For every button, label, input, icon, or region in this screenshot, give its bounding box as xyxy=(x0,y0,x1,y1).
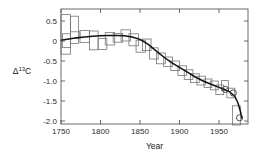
y-tick-label: -1.5 xyxy=(43,97,57,106)
y-tick-label: 0.5 xyxy=(46,17,58,26)
y-tick-label: -0.5 xyxy=(43,57,57,66)
x-axis-title: Year xyxy=(146,141,163,151)
chart-figure: 175018001850190019500.50-0.5-1.0-1.5-2.0… xyxy=(0,0,265,160)
y-tick-label: -1.0 xyxy=(43,77,57,86)
y-tick-label: 0 xyxy=(53,37,58,46)
y-tick-label: -2.0 xyxy=(43,117,57,126)
chart-svg: 175018001850190019500.50-0.5-1.0-1.5-2.0… xyxy=(0,0,265,160)
x-tick-label: 1850 xyxy=(131,127,149,136)
chart-background xyxy=(0,0,265,160)
x-tick-label: 1800 xyxy=(92,127,110,136)
x-tick-label: 1950 xyxy=(210,127,228,136)
x-tick-label: 1750 xyxy=(52,127,70,136)
x-tick-label: 1900 xyxy=(171,127,189,136)
